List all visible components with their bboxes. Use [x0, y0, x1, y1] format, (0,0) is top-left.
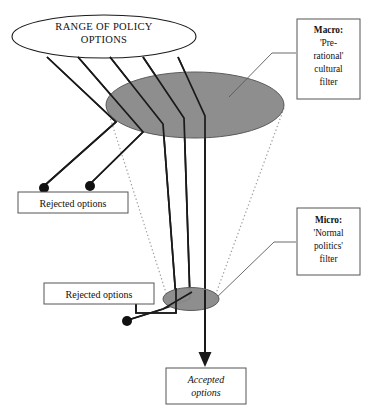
option-path-rejected-macro-1-overlay [44, 57, 116, 186]
accepted-box-label-line1: Accepted [187, 374, 226, 385]
micro-filter-ellipse [163, 288, 219, 311]
macro-callout-line-1: Macro: [314, 25, 343, 35]
macro-filter-shape [106, 72, 284, 138]
diagram-svg: RANGE OF POLICY OPTIONS [0, 0, 366, 409]
option-path-rejected-macro-2-overlay [78, 57, 143, 184]
rejected-upper-box-label: Rejected options [40, 198, 107, 209]
micro-callout-box: Micro: 'Normal politics' filter [297, 208, 360, 275]
rejected-options-box-lower: Rejected options [44, 283, 154, 304]
accepted-box-label-line2: options [191, 387, 221, 398]
source-oval: RANGE OF POLICY OPTIONS [12, 15, 196, 58]
micro-callout-line-1: Micro: [315, 215, 342, 225]
macro-callout-line-2: 'Pre- [320, 38, 337, 48]
macro-callout-line-4: cultural [314, 64, 343, 74]
option-path-rejected-macro-1 [44, 57, 116, 186]
micro-callout-line-4: filter [319, 254, 338, 264]
micro-callout-leader [213, 242, 296, 301]
accepted-options-box: Accepted options [166, 368, 246, 404]
micro-leader-line [213, 242, 296, 301]
rejected-dot-lower-2 [122, 316, 132, 326]
macro-filter-ellipse [106, 72, 284, 138]
accepted-arrow-head [199, 352, 212, 367]
macro-callout-box: Macro: 'Pre- rational' cultural filter [297, 19, 360, 99]
diagram-canvas: RANGE OF POLICY OPTIONS [0, 0, 366, 409]
source-oval-label-line1: RANGE OF POLICY [55, 21, 152, 32]
micro-callout-line-2: 'Normal [313, 228, 343, 238]
rejected-dot-upper-2 [85, 181, 95, 191]
micro-filter-shape [163, 288, 219, 311]
source-oval-label-line2: OPTIONS [81, 34, 127, 45]
rejected-lower-box-label: Rejected options [66, 289, 133, 300]
macro-callout-line-5: filter [319, 77, 338, 87]
macro-callout-line-3: rational' [313, 51, 343, 61]
micro-callout-line-3: politics' [314, 241, 343, 251]
rejected-options-box-upper: Rejected options [18, 192, 128, 213]
